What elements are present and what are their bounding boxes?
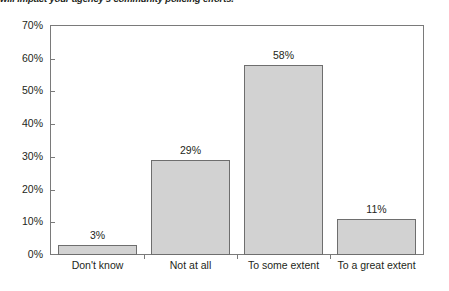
bar-value-label: 3% — [58, 229, 138, 241]
y-axis-tick-label: 50% — [22, 84, 43, 96]
x-axis-category-label: To some extent — [237, 259, 330, 271]
bar-value-label: 58% — [244, 49, 324, 61]
bar-value-label: 29% — [151, 144, 231, 156]
y-axis-tick-label: 30% — [22, 150, 43, 162]
x-axis: Don't knowNot at allTo some extentTo a g… — [51, 259, 423, 279]
y-axis: 0%10%20%30%40%50%60%70% — [0, 0, 46, 291]
y-axis-tick-label: 70% — [22, 19, 43, 31]
bar[interactable] — [58, 245, 138, 255]
bar-group: 29% — [151, 26, 231, 255]
x-axis-category-label: Don't know — [51, 259, 144, 271]
bar-value-label: 11% — [337, 203, 417, 215]
bar[interactable] — [244, 65, 324, 255]
bar[interactable] — [151, 160, 231, 255]
y-axis-tick-label: 60% — [22, 52, 43, 64]
y-axis-tick-label: 20% — [22, 183, 43, 195]
bar-group: 58% — [244, 26, 324, 255]
bar-chart-figure: 0%10%20%30%40%50%60%70% 3%29%58%11% Don'… — [0, 0, 449, 291]
bar-group: 11% — [337, 26, 417, 255]
bar[interactable] — [337, 219, 417, 255]
bar-series: 3%29%58%11% — [51, 26, 423, 255]
y-axis-tick-label: 0% — [28, 248, 43, 260]
x-axis-category-label: Not at all — [144, 259, 237, 271]
y-axis-tick-label: 40% — [22, 117, 43, 129]
y-axis-tick-label: 10% — [22, 215, 43, 227]
bar-group: 3% — [58, 26, 138, 255]
x-axis-category-label: To a great extent — [330, 259, 423, 271]
